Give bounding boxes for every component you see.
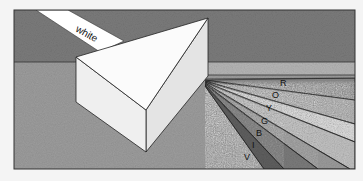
label-orange: O — [272, 90, 279, 100]
label-green: G — [261, 116, 268, 126]
label-blue: B — [256, 128, 262, 138]
label-indigo: I — [252, 140, 255, 150]
prism-dispersion-diagram: white R O Y G B I V — [0, 0, 363, 181]
label-red: R — [280, 78, 287, 88]
label-violet: V — [244, 152, 250, 162]
label-yellow: Y — [266, 103, 272, 113]
horizon-band — [205, 62, 355, 75]
